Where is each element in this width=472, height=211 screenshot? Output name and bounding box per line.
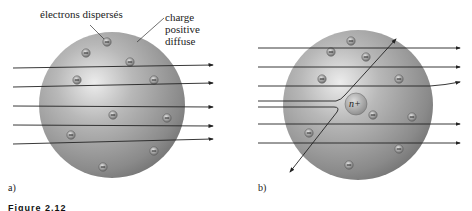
charge-line-2: positive bbox=[165, 23, 200, 35]
thomson-sphere bbox=[39, 32, 185, 178]
rutherford-diagram: électrons dispersés charge positive diff… bbox=[0, 0, 472, 211]
charge-line-1: charge bbox=[165, 11, 200, 23]
panel-a-label: a) bbox=[8, 182, 16, 194]
charge-annotation: charge positive diffuse bbox=[165, 11, 200, 47]
figure-caption: Figure 2.12 bbox=[8, 203, 67, 211]
panel-b-label: b) bbox=[258, 182, 266, 194]
electrons-annotation: électrons dispersés bbox=[40, 8, 123, 20]
nucleus-label: n+ bbox=[349, 98, 361, 110]
charge-line-3: diffuse bbox=[165, 35, 200, 47]
